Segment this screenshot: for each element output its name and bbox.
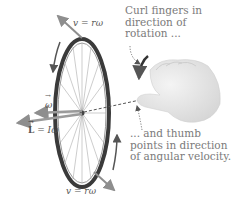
velocity-label-bottom: v = rω — [66, 186, 96, 196]
thumb-caption: ... and thumb points in direction of ang… — [130, 128, 231, 163]
rotation-arrow-right-icon — [113, 135, 117, 170]
omega-symbol: ω — [45, 100, 52, 110]
L-symbol: L — [28, 125, 34, 135]
right-hand-icon — [137, 60, 220, 123]
omega-label: ω — [45, 100, 52, 110]
angular-momentum-label: L = Iω — [28, 125, 59, 135]
omega-vector-arrow-icon — [36, 111, 82, 113]
curl-direction-arrow-icon — [139, 56, 148, 78]
velocity-arrow-bottom-icon — [94, 172, 114, 190]
curl-pointer-icon — [130, 46, 140, 64]
rotation-axis-line — [84, 100, 140, 112]
L-equation: = Iω — [34, 125, 58, 135]
velocity-label-top: v = rω — [73, 18, 103, 28]
angular-momentum-diagram: v = rω v = rω ω L = Iω Curl fingers in d… — [0, 0, 235, 205]
curl-caption: Curl fingers in direction of rotation ..… — [125, 5, 202, 40]
